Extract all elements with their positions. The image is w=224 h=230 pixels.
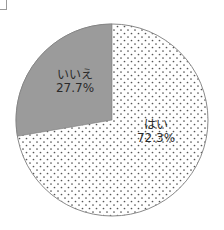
slice-label-yes-pct: 72.3%: [134, 132, 178, 145]
slice-label-no-pct: 27.7%: [55, 82, 95, 95]
pie-chart: [0, 0, 224, 230]
slice-label-no-name: いいえ: [57, 68, 93, 82]
slice-label-no: いいえ 27.7%: [55, 69, 95, 95]
slice-label-yes: はい 72.3%: [134, 119, 178, 145]
slice-label-yes-name: はい: [144, 118, 168, 132]
